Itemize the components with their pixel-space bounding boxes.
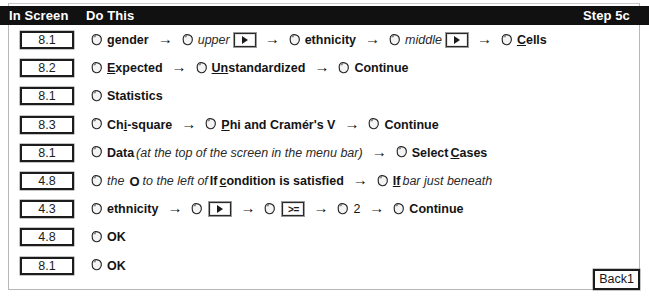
mouse-click-icon [394, 145, 409, 160]
mouse-click-icon [366, 117, 381, 132]
right-arrow-icon: → [181, 117, 196, 131]
action-cell: Expected→Unstandardized→Continue [85, 61, 639, 76]
mouse-click-icon [391, 202, 406, 217]
mouse-click-icon [89, 89, 104, 104]
action-cell: Data(at the top of the screen in the men… [85, 145, 639, 160]
action-text: Continue [354, 61, 408, 75]
mouse-click-icon [387, 33, 402, 48]
mouse-click-icon [89, 202, 104, 217]
mouse-click-icon [89, 61, 104, 76]
mouse-click-icon [336, 61, 351, 76]
screen-number-cell: 8.3 [9, 116, 85, 134]
triangle-right-glyph [242, 36, 248, 44]
action-text: condition is satisfied [219, 174, 343, 188]
table-row: 8.1Data(at the top of the screen in the … [9, 139, 639, 167]
action-text: Expected [107, 61, 163, 75]
right-arrow-icon: → [313, 201, 328, 215]
mouse-click-icon [89, 258, 104, 273]
table-row: 4.8OK [9, 223, 639, 251]
mouse-click-icon [89, 174, 104, 189]
back-button[interactable]: Back1 [593, 269, 640, 290]
table-row: 8.2Expected→Unstandardized→Continue [9, 54, 639, 82]
column-header-do-this: Do This [86, 8, 134, 23]
screen-number-box: 4.8 [20, 172, 74, 190]
greater-equal-glyph: >= [288, 204, 299, 215]
right-arrow-icon: → [314, 60, 329, 74]
mouse-click-icon [89, 117, 104, 132]
action-text: bar just beneath [402, 174, 492, 188]
action-cell: OK [85, 258, 639, 273]
step-label: Step 5c [583, 8, 630, 23]
action-text: Continue [409, 202, 463, 216]
mouse-click-icon [180, 33, 195, 48]
screen-number-box: 4.3 [20, 200, 74, 218]
screen-number-box: 8.3 [20, 116, 74, 134]
action-text: Data [107, 146, 134, 160]
action-text: Select [412, 146, 449, 160]
right-arrow-icon: → [353, 173, 368, 187]
move-right-button-icon[interactable] [446, 33, 468, 47]
action-text: middle [405, 33, 442, 47]
triangle-right-glyph [217, 205, 223, 213]
action-text: Unstandardized [212, 61, 306, 75]
screen-number-box: 4.8 [20, 228, 74, 246]
table-row: 8.1Statistics [9, 82, 639, 110]
right-arrow-icon: → [158, 32, 173, 46]
action-text: If [393, 174, 401, 188]
action-text: to the left of [143, 174, 208, 188]
action-cell: OK [85, 230, 639, 245]
action-text: Cases [450, 146, 487, 160]
move-right-button-icon[interactable] [234, 33, 256, 47]
table-row: 8.3Chi-square→Phi and Cramér's V→Continu… [9, 111, 639, 139]
step-instruction-table-page: In Screen Do This Step 5c 8.1gender→uppe… [0, 0, 649, 298]
table-row: 8.1OK [9, 252, 639, 280]
action-text: 2 [353, 202, 360, 216]
right-arrow-icon: → [167, 201, 182, 215]
mouse-click-icon [499, 33, 514, 48]
instruction-rows: 8.1gender→upper→ethnicity→middle→Cells8.… [9, 26, 639, 288]
right-arrow-icon: → [344, 117, 359, 131]
column-header-in-screen: In Screen [9, 8, 68, 23]
table-header-bar: In Screen Do This Step 5c [0, 6, 649, 25]
table-row: 4.8theOto the left ofIf condition is sat… [9, 167, 639, 195]
mouse-click-icon [194, 61, 209, 76]
action-text: Cells [517, 33, 547, 47]
action-text: ethnicity [107, 202, 158, 216]
screen-number-box: 8.1 [20, 144, 74, 162]
action-text: Chi-square [107, 118, 172, 132]
greater-equal-button-icon[interactable]: >= [282, 202, 304, 216]
action-text: Phi and Cramér's V [221, 118, 335, 132]
action-text: upper [198, 33, 230, 47]
action-text: OK [107, 230, 126, 244]
triangle-right-glyph [454, 36, 460, 44]
mouse-click-icon [287, 33, 302, 48]
mouse-click-icon [89, 33, 104, 48]
action-text: OK [107, 259, 126, 273]
mouse-click-icon [89, 230, 104, 245]
screen-number-cell: 8.1 [9, 31, 85, 49]
screen-number-box: 8.1 [20, 87, 74, 105]
table-row: 8.1gender→upper→ethnicity→middle→Cells [9, 26, 639, 54]
action-cell: theOto the left ofIf condition is satisf… [85, 174, 639, 189]
action-text: Continue [384, 118, 438, 132]
screen-number-cell: 8.1 [9, 257, 85, 275]
screen-number-cell: 8.1 [9, 87, 85, 105]
screen-number-cell: 8.2 [9, 59, 85, 77]
action-cell: ethnicity→→>=→2→Continue [85, 202, 639, 217]
action-text: the [107, 174, 124, 188]
screen-number-cell: 8.1 [9, 144, 85, 162]
action-text: (at the top of the screen in the menu ba… [136, 146, 363, 160]
right-arrow-icon: → [365, 32, 380, 46]
action-text: Statistics [107, 89, 163, 103]
right-arrow-icon: → [477, 32, 492, 46]
action-text: gender [107, 33, 149, 47]
right-arrow-icon: → [240, 201, 255, 215]
action-text: O [129, 174, 139, 189]
action-cell: gender→upper→ethnicity→middle→Cells [85, 33, 639, 48]
right-arrow-icon: → [265, 32, 280, 46]
mouse-click-icon [262, 202, 277, 217]
screen-number-box: 8.2 [20, 59, 74, 77]
move-right-button-icon[interactable] [209, 202, 231, 216]
right-arrow-icon: → [172, 60, 187, 74]
action-cell: Chi-square→Phi and Cramér's V→Continue [85, 117, 639, 132]
